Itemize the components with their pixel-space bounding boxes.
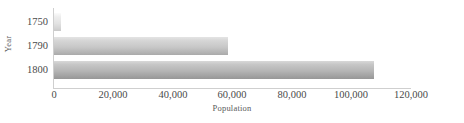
- x-axis-title: Population: [53, 103, 411, 113]
- x-tick-label-120000: 120,000: [394, 89, 428, 100]
- bar-chart: Year 1750 1790 1800 0 20,000 40,000 60,0…: [0, 0, 464, 123]
- bar-1750[interactable]: [54, 13, 61, 31]
- y-axis-title-label: Year: [3, 36, 13, 52]
- bar-1790[interactable]: [54, 37, 228, 55]
- bar-1800[interactable]: [54, 61, 374, 79]
- plot-area: [53, 8, 411, 88]
- x-tick-label-80000: 80,000: [278, 89, 307, 100]
- x-tick-label-60000: 60,000: [218, 89, 247, 100]
- y-tick-label-1750: 1750: [27, 13, 48, 31]
- y-tick-label-1790: 1790: [27, 37, 48, 55]
- y-tick-label-1800: 1800: [27, 61, 48, 79]
- x-tick-label-100000: 100,000: [334, 89, 368, 100]
- x-tick-label-20000: 20,000: [99, 89, 128, 100]
- y-axis-tick-labels: 1750 1790 1800: [14, 8, 51, 88]
- x-axis-tick-labels: 0 20,000 40,000 60,000 80,000 100,000 12…: [53, 89, 411, 103]
- x-tick-label-0: 0: [51, 89, 56, 100]
- x-tick-label-40000: 40,000: [159, 89, 188, 100]
